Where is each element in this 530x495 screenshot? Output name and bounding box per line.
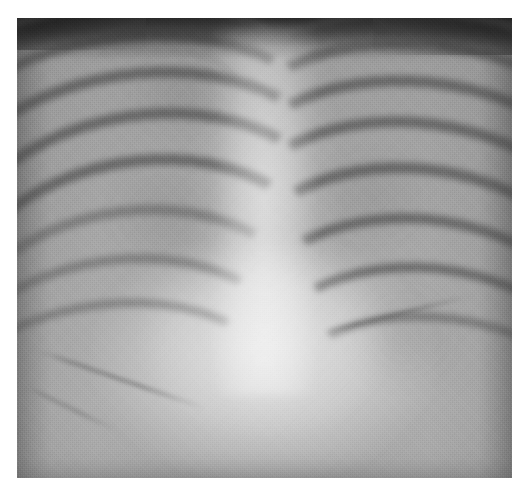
clavicle-1 — [72, 34, 258, 139]
left-hemidiaphragm-line — [36, 349, 205, 410]
chest-radiograph-image — [17, 18, 512, 478]
clavicle-2 — [279, 29, 465, 134]
right-mid-patch — [304, 156, 443, 239]
radiograph-page — [0, 0, 530, 495]
left-mid-patch — [96, 174, 235, 257]
perihilar-haze — [215, 193, 324, 285]
left-costophrenic-line — [26, 386, 116, 431]
left-rib-8 — [17, 257, 340, 478]
